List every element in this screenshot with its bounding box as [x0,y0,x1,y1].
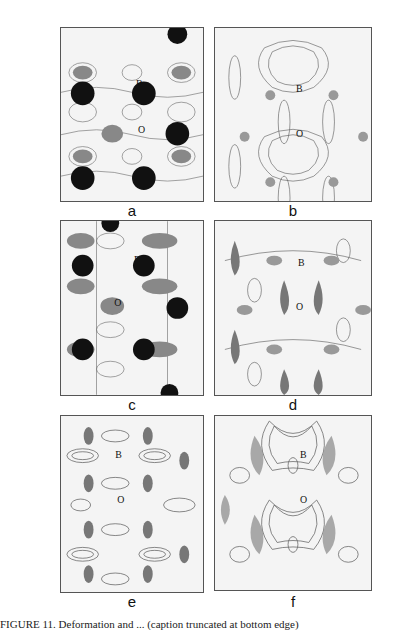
atom-label-o: O [138,124,145,135]
contour-map-f: B O [215,416,371,590]
panel-e: B O [60,415,204,593]
atom-label-b: B [298,257,305,268]
panel-label-e: e [112,593,152,610]
panel-label-f: f [273,593,313,610]
panel-d: B O [214,220,372,396]
panel-f: B O [214,415,372,591]
atom-label-b: B [296,83,303,94]
panel-label-a: a [112,202,152,219]
panel-label-c: c [112,396,152,413]
atom-label-o: O [300,494,307,505]
contour-map-e: B O [61,416,203,592]
contour-map-b: B O [215,28,371,201]
atom-label-b: B [115,449,122,460]
atom-label-b: B [136,78,143,89]
atom-label-o: O [296,301,303,312]
contour-map-a: B O [61,28,203,201]
atom-label-o: O [117,494,124,505]
atom-label-o: O [114,297,121,308]
atom-label-b: B [300,449,307,460]
panel-label-b: b [273,202,313,219]
panel-a: B O [60,27,204,202]
atom-label-b: B [134,254,141,265]
contour-map-c: B O [61,221,203,395]
panel-b: B O [214,27,372,202]
contour-map-d: B O [215,221,371,395]
panel-label-d: d [273,396,313,413]
atom-label-o: O [296,128,303,139]
panel-c: B O [60,220,204,396]
figure-caption: FIGURE 11. Deformation and ... (caption … [0,618,417,630]
